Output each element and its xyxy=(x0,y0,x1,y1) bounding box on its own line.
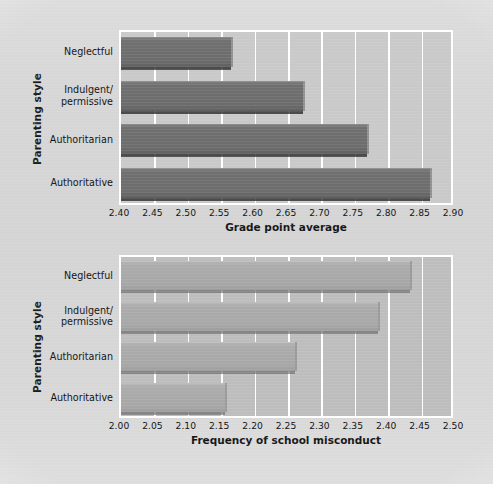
x-axis-tick-label: 2.55 xyxy=(209,207,229,218)
y-axis-tick-label: Neglectful xyxy=(18,255,119,296)
y-axis-tick-label: Authoritative xyxy=(18,377,119,418)
x-axis-tick-label: 2.90 xyxy=(443,207,463,218)
x-axis-tick-label: 2.60 xyxy=(242,207,262,218)
x-axis-title-top: Grade point average xyxy=(119,221,453,233)
x-axis-tick-label: 2.30 xyxy=(309,420,329,431)
y-axis-tick-label: Indulgent/permissive xyxy=(18,74,119,118)
x-axis-tick-label: 2.25 xyxy=(276,420,296,431)
y-axis-tick-label: Neglectful xyxy=(18,30,119,74)
x-axis-tick-label: 2.35 xyxy=(343,420,363,431)
x-axis-tick-label: 2.85 xyxy=(409,207,429,218)
x-axis-tick-label: 2.10 xyxy=(176,420,196,431)
bar[interactable] xyxy=(121,124,367,154)
bar[interactable] xyxy=(121,37,231,67)
bar-slot xyxy=(121,168,451,198)
bar[interactable] xyxy=(121,81,303,111)
plot-area-bottom xyxy=(119,255,453,418)
x-axis-tick-label: 2.45 xyxy=(142,207,162,218)
plot-area-top xyxy=(119,30,453,205)
y-axis-tick-label: Indulgent/permissive xyxy=(18,296,119,337)
bar-slot xyxy=(121,124,451,154)
x-axis-tick-label: 2.20 xyxy=(242,420,262,431)
x-axis-tick-label: 2.00 xyxy=(109,420,129,431)
x-axis-title-bottom: Frequency of school misconduct xyxy=(119,434,453,446)
x-axis-tick-labels-top: 2.402.452.502.552.602.652.702.752.802.85… xyxy=(119,207,453,221)
x-axis-tick-label: 2.40 xyxy=(109,207,129,218)
bar-slot xyxy=(121,81,451,111)
y-axis-tick-label: Authoritarian xyxy=(18,118,119,162)
chart-grade-point-average: Parenting style NeglectfulIndulgent/perm… xyxy=(0,0,493,240)
x-axis-tick-label: 2.70 xyxy=(309,207,329,218)
chart-frequency-of-school-misconduct: Parenting style NeglectfulIndulgent/perm… xyxy=(0,240,493,484)
x-axis-tick-labels-bottom: 2.002.052.102.152.202.252.302.352.402.45… xyxy=(119,420,453,434)
y-axis-tick-labels-bottom: NeglectfulIndulgent/permissiveAuthoritar… xyxy=(18,255,119,418)
bar-slot xyxy=(121,37,451,67)
bar[interactable] xyxy=(121,261,410,290)
x-axis-tick-label: 2.40 xyxy=(376,420,396,431)
x-axis-tick-label: 2.80 xyxy=(376,207,396,218)
bar[interactable] xyxy=(121,342,295,371)
x-axis-tick-label: 2.50 xyxy=(443,420,463,431)
x-axis-tick-label: 2.45 xyxy=(409,420,429,431)
x-axis-tick-label: 2.75 xyxy=(343,207,363,218)
x-axis-tick-label: 2.15 xyxy=(209,420,229,431)
bar[interactable] xyxy=(121,302,378,331)
bar-slot xyxy=(121,383,451,412)
bar[interactable] xyxy=(121,383,225,412)
bar-slot xyxy=(121,342,451,371)
x-axis-tick-label: 2.50 xyxy=(176,207,196,218)
x-axis-tick-label: 2.65 xyxy=(276,207,296,218)
x-axis-tick-label: 2.05 xyxy=(142,420,162,431)
y-axis-tick-label: Authoritarian xyxy=(18,337,119,378)
bar[interactable] xyxy=(121,168,430,198)
bar-slot xyxy=(121,302,451,331)
y-axis-tick-labels-top: NeglectfulIndulgent/permissiveAuthoritar… xyxy=(18,30,119,205)
y-axis-tick-label: Authoritative xyxy=(18,161,119,205)
figure-page: Parenting style NeglectfulIndulgent/perm… xyxy=(0,0,493,484)
bar-slot xyxy=(121,261,451,290)
